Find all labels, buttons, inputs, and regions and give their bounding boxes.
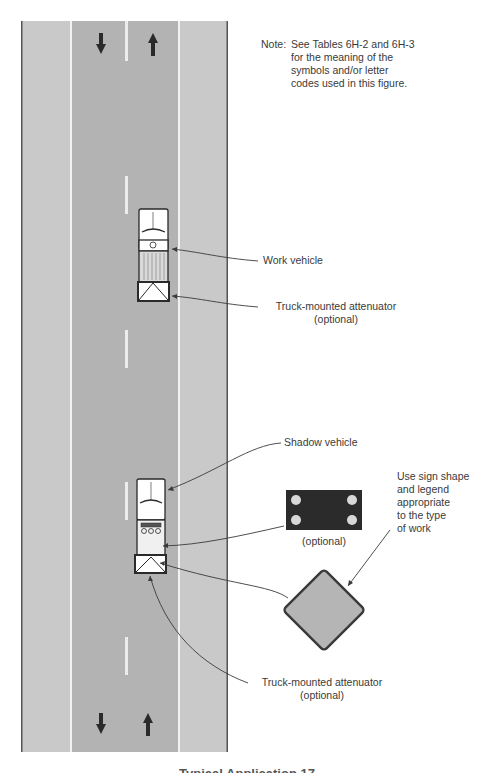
right-shoulder bbox=[180, 21, 227, 752]
label-tma-1-text: Truck-mounted attenuator bbox=[266, 300, 406, 313]
label-arrow-board-optional: (optional) bbox=[286, 535, 362, 548]
sign-note-line: appropriate bbox=[397, 496, 469, 509]
work-vehicle-icon bbox=[138, 209, 169, 301]
left-shoulder bbox=[22, 21, 70, 752]
note-line: symbols and/or letter bbox=[291, 64, 388, 77]
label-shadow-vehicle: Shadow vehicle bbox=[284, 436, 358, 449]
note-prefix: Note: bbox=[261, 38, 291, 51]
label-tma-2-text: Truck-mounted attenuator bbox=[252, 676, 392, 689]
sign-note-line: Use sign shape bbox=[397, 470, 469, 483]
note-line: codes used in this figure. bbox=[291, 77, 407, 90]
label-work-vehicle: Work vehicle bbox=[263, 254, 323, 267]
sign-note-line: of work bbox=[397, 522, 469, 535]
label-tma-2-optional: (optional) bbox=[252, 689, 392, 702]
sign-note-line: and legend bbox=[397, 483, 469, 496]
road-outer-edge-right bbox=[227, 21, 229, 752]
note-line: See Tables 6H-2 and 6H-3 bbox=[291, 38, 415, 51]
note-line: for the meaning of the bbox=[291, 51, 393, 64]
figure-note: Note: See Tables 6H-2 and 6H-3 for the m… bbox=[261, 38, 415, 90]
shadow-vehicle-icon bbox=[135, 479, 166, 573]
figure-caption: Typical Application 17 bbox=[0, 764, 494, 773]
label-sign-note: Use sign shape and legend appropriate to… bbox=[397, 470, 469, 535]
diamond-sign-icon bbox=[283, 569, 365, 651]
sign-note-line: to the type bbox=[397, 509, 469, 522]
label-tma-1: Truck-mounted attenuator (optional) bbox=[266, 300, 406, 326]
label-tma-1-optional: (optional) bbox=[266, 313, 406, 326]
road-outer-edge-left bbox=[21, 21, 23, 752]
arrow-board-icon bbox=[286, 490, 362, 530]
right-edge-line bbox=[178, 21, 180, 752]
label-tma-2: Truck-mounted attenuator (optional) bbox=[252, 676, 392, 702]
road-diagram bbox=[0, 0, 494, 773]
left-edge-line bbox=[70, 21, 72, 752]
roadway bbox=[21, 21, 228, 752]
